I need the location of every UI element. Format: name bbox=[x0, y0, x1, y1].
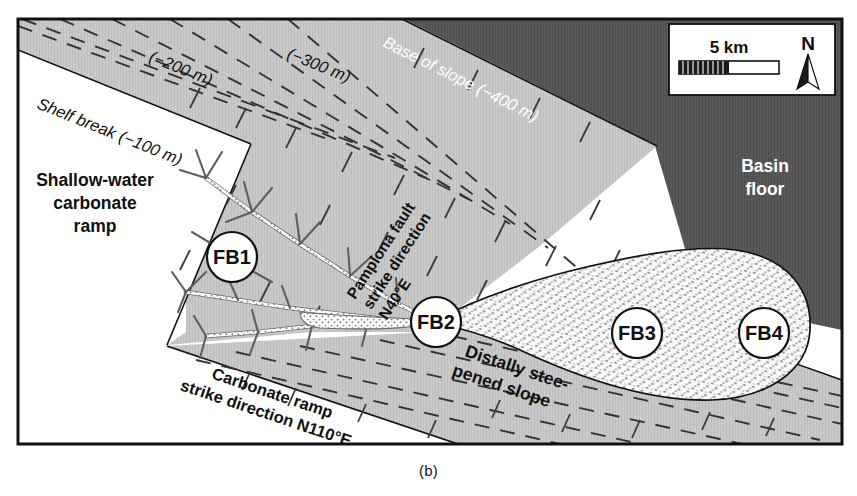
map-legend: 5 km N bbox=[669, 24, 835, 95]
shelf-label-line1: Shallow-water bbox=[36, 170, 154, 190]
fan-body-label-fb2: FB2 bbox=[417, 311, 455, 333]
shelf-label-line2: carbonate bbox=[53, 193, 137, 213]
scale-bar-label: 5 km bbox=[710, 38, 749, 57]
geological-map-figure: Shelf break (−100 m) (−200 m) (−300 m) B… bbox=[0, 0, 857, 496]
map-body: Shelf break (−100 m) (−200 m) (−300 m) B… bbox=[18, 19, 842, 450]
figure-panel: Shelf break (−100 m) (−200 m) (−300 m) B… bbox=[0, 0, 857, 496]
fan-body-marker-fb4[interactable]: FB4 bbox=[739, 308, 789, 358]
fan-body-label-fb3: FB3 bbox=[618, 322, 656, 344]
basin-label-line1: Basin bbox=[741, 156, 789, 176]
fan-body-label-fb1: FB1 bbox=[213, 246, 251, 268]
fan-body-label-fb4: FB4 bbox=[745, 322, 784, 344]
basin-label-line2: floor bbox=[746, 179, 785, 199]
fan-body-marker-fb1[interactable]: FB1 bbox=[207, 232, 257, 282]
figure-caption: (b) bbox=[0, 462, 857, 479]
fan-body-marker-fb3[interactable]: FB3 bbox=[612, 308, 662, 358]
fan-body-marker-fb2[interactable]: FB2 bbox=[411, 297, 461, 347]
north-arrow-label: N bbox=[801, 33, 815, 54]
shelf-label-line3: ramp bbox=[74, 216, 117, 236]
scale-bar-icon bbox=[679, 61, 779, 74]
